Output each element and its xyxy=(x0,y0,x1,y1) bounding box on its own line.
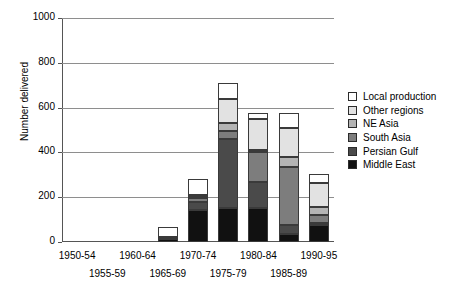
legend-swatch-icon xyxy=(348,160,357,169)
legend-item-local-production[interactable]: Local production xyxy=(348,90,456,104)
bar-segment-other-regions xyxy=(248,119,268,150)
bar-segment-other-regions xyxy=(188,195,208,197)
bar-segment-middle-east xyxy=(248,208,268,242)
bar-segment-persian-gulf xyxy=(309,223,329,225)
y-tick-label: 0 xyxy=(15,235,55,246)
chart-figure: Number delivered 02004006008001000 1950-… xyxy=(0,0,459,292)
bar-1985-89 xyxy=(279,113,299,242)
bar-1970-74 xyxy=(188,179,208,242)
bar-segment-middle-east xyxy=(188,210,208,242)
bar-segment-local-production xyxy=(248,113,268,119)
bar-segment-persian-gulf xyxy=(248,182,268,209)
bar-segment-south-asia xyxy=(309,215,329,223)
bar-segment-local-production xyxy=(309,174,329,183)
bar-segment-middle-east xyxy=(158,239,178,242)
legend-swatch-icon xyxy=(348,133,357,142)
legend-item-other-regions[interactable]: Other regions xyxy=(348,104,456,118)
legend-swatch-icon xyxy=(348,92,357,101)
y-tick-label: 1000 xyxy=(15,11,55,22)
legend-label: South Asia xyxy=(363,132,411,143)
y-tick-label: 800 xyxy=(15,56,55,67)
legend-label: NE Asia xyxy=(363,118,399,129)
bar-segment-persian-gulf xyxy=(188,202,208,210)
bar-segment-ne-asia xyxy=(309,207,329,215)
bar-segment-persian-gulf xyxy=(279,225,299,234)
bar-segment-local-production xyxy=(188,179,208,195)
legend-label: Other regions xyxy=(363,105,424,116)
bar-1990-95 xyxy=(309,174,329,242)
y-tick-label: 400 xyxy=(15,145,55,156)
bar-segment-ne-asia xyxy=(158,237,178,239)
bar-segment-ne-asia xyxy=(248,150,268,152)
bar-segment-other-regions xyxy=(218,99,238,124)
legend-item-middle-east[interactable]: Middle East xyxy=(348,158,456,172)
legend-swatch-icon xyxy=(348,147,357,156)
bar-segment-south-asia xyxy=(248,152,268,181)
bar-segment-local-production xyxy=(279,113,299,128)
bar-segment-other-regions xyxy=(279,128,299,157)
y-tick-mark xyxy=(58,242,62,243)
chart-legend: Local productionOther regionsNE AsiaSout… xyxy=(348,90,456,172)
legend-label: Middle East xyxy=(363,159,415,170)
x-tick-label-1970-74: 1970-74 xyxy=(180,250,217,261)
bar-segment-middle-east xyxy=(279,234,299,242)
bar-segment-ne-asia xyxy=(279,157,299,167)
bar-segment-persian-gulf xyxy=(218,139,238,208)
legend-label: Persian Gulf xyxy=(363,146,418,157)
legend-swatch-icon xyxy=(348,106,357,115)
legend-swatch-icon xyxy=(348,119,357,128)
bar-segment-ne-asia xyxy=(218,123,238,131)
bar-1980-84 xyxy=(248,113,268,242)
x-tick-label-1955-59: 1955-59 xyxy=(89,268,126,279)
bar-segment-south-asia xyxy=(279,167,299,225)
bar-segment-south-asia xyxy=(218,131,238,139)
bar-segment-middle-east xyxy=(218,208,238,242)
legend-label: Local production xyxy=(363,91,436,102)
bar-segment-other-regions xyxy=(309,183,329,208)
legend-item-south-asia[interactable]: South Asia xyxy=(348,131,456,145)
bar-segment-middle-east xyxy=(309,225,329,242)
y-tick-label: 600 xyxy=(15,101,55,112)
bar-group xyxy=(62,18,334,242)
x-tick-label-1985-89: 1985-89 xyxy=(270,268,307,279)
y-tick-label: 200 xyxy=(15,190,55,201)
x-tick-label-1965-69: 1965-69 xyxy=(149,268,186,279)
bar-segment-local-production xyxy=(158,227,178,236)
x-tick-label-1975-79: 1975-79 xyxy=(210,268,247,279)
x-tick-label-1960-64: 1960-64 xyxy=(119,250,156,261)
legend-item-ne-asia[interactable]: NE Asia xyxy=(348,117,456,131)
bar-segment-local-production xyxy=(218,83,238,99)
plot-area: 02004006008001000 xyxy=(62,18,334,242)
bar-1975-79 xyxy=(218,83,238,242)
legend-item-persian-gulf[interactable]: Persian Gulf xyxy=(348,144,456,158)
x-tick-label-1990-95: 1990-95 xyxy=(301,250,338,261)
bar-1965-69 xyxy=(158,227,178,242)
x-axis-labels: 1950-541955-591960-641965-691970-741975-… xyxy=(62,246,334,290)
bar-segment-south-asia xyxy=(188,198,208,201)
x-tick-label-1980-84: 1980-84 xyxy=(240,250,277,261)
x-tick-label-1950-54: 1950-54 xyxy=(59,250,96,261)
